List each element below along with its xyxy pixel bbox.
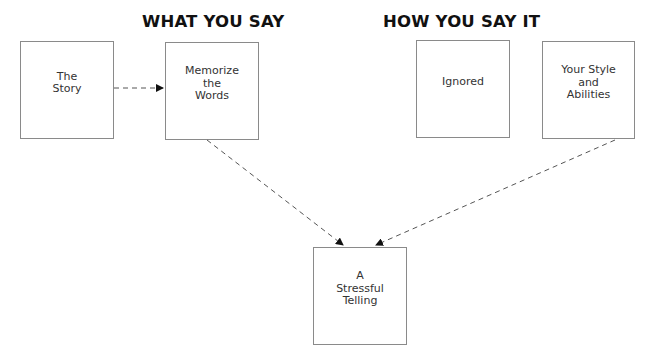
- connector-arrows: [0, 0, 653, 361]
- arrow-style-to-telling: [376, 140, 615, 245]
- arrow-memorize-to-telling: [207, 140, 343, 245]
